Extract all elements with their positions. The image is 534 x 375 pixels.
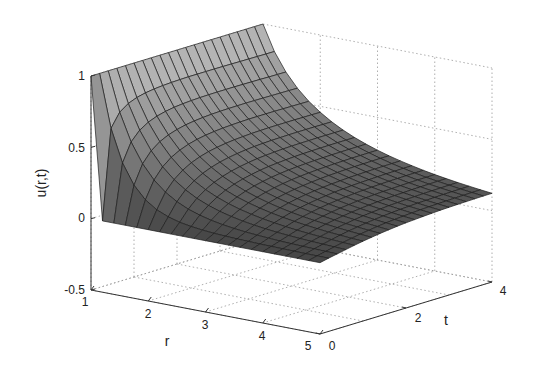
r-tick-1: 1: [82, 295, 89, 309]
z-axis-label: u(r,t): [33, 169, 49, 198]
z-tick-0.5: 0.5: [68, 141, 85, 155]
r-tick-5: 5: [305, 339, 312, 353]
t-axis-label: t: [444, 312, 448, 328]
surface-plot: 1 0.5 0 -0.5 1 2 3 4 5 0 2 4 u(r,t) r t: [0, 0, 534, 375]
t-tick-4: 4: [500, 284, 507, 298]
z-tick-0: 0: [78, 211, 85, 225]
r-tick-4: 4: [259, 329, 266, 343]
t-tick-0: 0: [329, 339, 336, 353]
r-axis-label: r: [165, 333, 170, 349]
r-tick-2: 2: [145, 307, 152, 321]
surface-mesh: [91, 24, 492, 263]
r-tick-3: 3: [202, 318, 209, 332]
z-tick-1: 1: [78, 69, 85, 83]
t-tick-2: 2: [415, 311, 422, 325]
